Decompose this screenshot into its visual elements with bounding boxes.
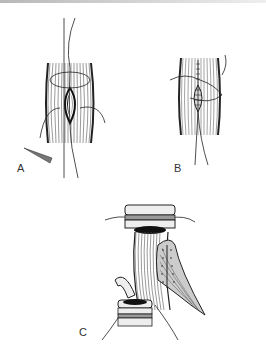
flap-repair-illustration-c: [100, 200, 210, 345]
muscle-wound-illustration-a: [20, 8, 120, 178]
panel-c: [100, 200, 210, 345]
panel-a: [20, 8, 120, 178]
needle-icon: [24, 148, 52, 163]
muscle-closed-illustration-b: [170, 50, 240, 175]
scan-edge: [0, 0, 266, 3]
panel-label-c: C: [79, 326, 87, 338]
panel-b: [170, 50, 240, 175]
panel-label-b: B: [174, 162, 181, 174]
panel-label-a: A: [17, 162, 24, 174]
muscle-flap: [157, 240, 206, 315]
